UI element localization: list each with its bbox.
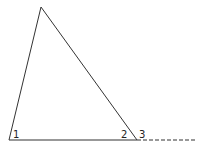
angle-label-2: 2: [121, 129, 127, 140]
triangle-diagram: 1 2 3: [0, 0, 208, 148]
angle-label-1: 1: [13, 129, 19, 140]
angle-label-3: 3: [139, 129, 145, 140]
left-side: [9, 7, 41, 140]
right-side: [41, 7, 137, 140]
